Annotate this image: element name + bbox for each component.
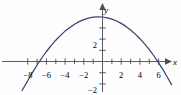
- x-tick-label-neg8: −8: [21, 64, 35, 82]
- x-axis-label: x: [173, 51, 177, 69]
- x-axis-arrow-icon: [165, 58, 172, 64]
- x-tick-label-pos6-text: 6: [156, 70, 160, 80]
- y-axis-label: y: [104, 0, 108, 17]
- x-tick-label-neg6: −6: [39, 64, 53, 82]
- x-tick-label-pos6: 6: [154, 64, 164, 82]
- x-axis-label-text: x: [173, 57, 177, 67]
- y-tick-label-neg2-text: −2: [88, 85, 97, 95]
- y-tick-label-pos2-text: 2: [93, 40, 97, 50]
- x-tick-label-pos4-text: 4: [138, 70, 142, 80]
- x-tick-label-neg8-text: −8: [23, 70, 32, 80]
- x-tick-label-pos2: 2: [116, 64, 126, 82]
- x-tick-label-pos4: 4: [135, 64, 145, 82]
- x-tick-label-neg6-text: −6: [42, 70, 51, 80]
- x-tick-label-neg4-text: −4: [61, 70, 70, 80]
- y-axis-label-text: y: [104, 5, 108, 15]
- parabola-graph-figure: −8 −6 −4 −2 2 4 6 2 −2 y x: [0, 0, 181, 94]
- x-tick-label-neg4: −4: [58, 64, 72, 82]
- y-tick-label-neg2: −2: [82, 79, 97, 95]
- x-tick-label-pos2-text: 2: [119, 70, 123, 80]
- y-tick-label-pos2: 2: [86, 34, 97, 52]
